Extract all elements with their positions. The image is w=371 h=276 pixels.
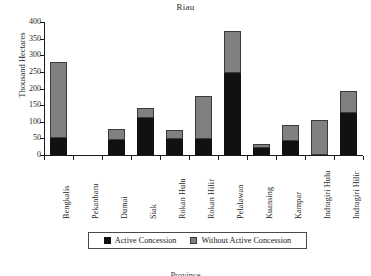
bar-segment-without-active-concession	[282, 125, 299, 141]
bar-segment-active-concession	[195, 139, 212, 155]
x-tick-mark	[218, 156, 219, 160]
x-tick-mark	[73, 156, 74, 160]
x-tick-mark	[44, 156, 45, 160]
bar-segment-active-concession	[282, 141, 299, 155]
x-tick-mark	[247, 156, 248, 160]
chart-figure: Riau Thousand Hectares 05010015020025030…	[0, 0, 371, 276]
legend-entry: Without Active Concession	[190, 236, 291, 246]
y-tick-label: 250	[29, 66, 41, 77]
y-tick-label: 50	[33, 132, 41, 143]
bar-segment-active-concession	[166, 139, 183, 155]
legend-entry: Active Concession	[104, 236, 177, 246]
y-tick-label: 400	[29, 16, 41, 27]
x-tick-mark	[102, 156, 103, 160]
bar-stack	[253, 144, 270, 155]
bar-segment-without-active-concession	[137, 108, 154, 119]
x-category-label: Dumai	[120, 196, 129, 219]
x-tick-mark	[363, 156, 364, 160]
bar-stack	[340, 91, 357, 155]
y-tick-label: 300	[29, 49, 41, 60]
x-category-label: Indragiri Hilir	[352, 171, 361, 219]
x-tick-mark	[305, 156, 306, 160]
y-axis-label: Thousand Hectares	[17, 5, 27, 125]
y-tick-label: 200	[29, 83, 41, 94]
x-category-label: Siak	[149, 204, 158, 219]
bar-segment-without-active-concession	[166, 130, 183, 139]
chart-legend: Active ConcessionWithout Active Concessi…	[88, 232, 307, 249]
legend-label: Without Active Concession	[201, 236, 291, 246]
y-tick-label: 0	[37, 149, 41, 160]
bar-stack	[166, 130, 183, 155]
bar-segment-without-active-concession	[108, 129, 125, 140]
bar-segment-active-concession	[340, 113, 357, 155]
bar-stack	[50, 62, 67, 155]
black-square-icon	[104, 237, 111, 244]
x-tick-mark	[189, 156, 190, 160]
x-category-label: Rokan Hilir	[207, 179, 216, 219]
bar-stack	[282, 125, 299, 155]
bar-stack	[311, 120, 328, 155]
bar-stack	[137, 108, 154, 155]
bar-segment-active-concession	[137, 118, 154, 155]
bar-stack	[224, 31, 241, 155]
gray-square-icon	[190, 237, 197, 244]
x-category-label: Pekanbaru	[91, 184, 100, 219]
bottom-caption: Province	[0, 270, 371, 276]
bar-segment-active-concession	[253, 148, 270, 155]
bar-segment-without-active-concession	[340, 91, 357, 113]
bar-segment-active-concession	[108, 140, 125, 155]
x-axis-line	[44, 155, 363, 156]
x-category-label: Rokan Hulu	[178, 178, 187, 219]
x-tick-mark	[131, 156, 132, 160]
y-axis-line	[44, 22, 45, 156]
legend-label: Active Concession	[115, 236, 177, 246]
bar-segment-active-concession	[224, 73, 241, 155]
x-category-label: Pelalawan	[236, 184, 245, 219]
bar-segment-without-active-concession	[50, 62, 67, 138]
bar-segment-without-active-concession	[311, 120, 328, 155]
x-category-label: Kuansing	[265, 187, 274, 219]
x-category-label: Indragiri Hulu	[323, 171, 332, 219]
x-category-label: Bengkalis	[62, 185, 71, 219]
bar-stack	[108, 129, 125, 155]
y-tick-label: 350	[29, 33, 41, 44]
y-tick-label: 150	[29, 99, 41, 110]
bar-segment-without-active-concession	[195, 96, 212, 139]
bar-stack	[195, 96, 212, 155]
x-tick-mark	[276, 156, 277, 160]
y-tick-label: 100	[29, 116, 41, 127]
plot-area: 050100150200250300350400	[44, 22, 363, 156]
bar-segment-without-active-concession	[224, 31, 241, 73]
x-tick-mark	[160, 156, 161, 160]
bar-segment-active-concession	[50, 138, 67, 155]
x-category-label: Kampar	[294, 192, 303, 219]
x-tick-mark	[334, 156, 335, 160]
chart-title: Riau	[0, 2, 371, 13]
